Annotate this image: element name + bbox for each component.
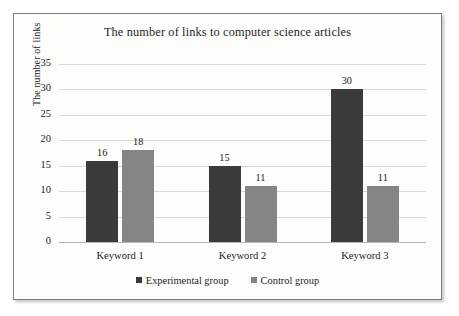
chart-title: The number of links to computer science …: [14, 25, 441, 40]
bar-value-label: 18: [122, 136, 154, 147]
x-axis-line: [59, 242, 426, 243]
bar-value-label: 11: [245, 172, 277, 183]
bar-value-label: 16: [86, 147, 118, 158]
x-category-label: Keyword 2: [183, 250, 303, 261]
bar-value-label: 15: [209, 152, 241, 163]
legend-swatch-icon: [136, 277, 142, 283]
y-tick-label: 35: [25, 57, 51, 68]
bar-experimental[interactable]: [209, 166, 241, 242]
legend-label: Experimental group: [146, 275, 229, 286]
bar-chart: The number of links to computer science …: [14, 14, 441, 299]
legend-swatch-icon: [251, 277, 257, 283]
legend-label: Control group: [261, 275, 320, 286]
x-category-label: Keyword 3: [305, 250, 425, 261]
gridline: [59, 140, 426, 141]
y-tick-label: 10: [25, 184, 51, 195]
plot-area: 161815113011: [59, 64, 426, 242]
bar-control[interactable]: [367, 186, 399, 242]
scanned-page-frame: The number of links to computer science …: [13, 13, 442, 300]
y-tick-label: 20: [25, 133, 51, 144]
bar-control[interactable]: [245, 186, 277, 242]
bar-value-label: 30: [331, 75, 363, 86]
bar-value-label: 11: [367, 172, 399, 183]
y-tick-label: 30: [25, 82, 51, 93]
gridline: [59, 64, 426, 65]
y-tick-label: 25: [25, 108, 51, 119]
y-tick-label: 15: [25, 159, 51, 170]
y-tick-label: 5: [25, 210, 51, 221]
gridline: [59, 89, 426, 90]
bar-control[interactable]: [122, 150, 154, 242]
x-category-label: Keyword 1: [60, 250, 180, 261]
bar-experimental[interactable]: [331, 89, 363, 242]
chart-legend: Experimental groupControl group: [14, 275, 441, 286]
legend-item-experimental-group[interactable]: Experimental group: [136, 275, 229, 286]
gridline: [59, 115, 426, 116]
bar-experimental[interactable]: [86, 161, 118, 242]
y-tick-label: 0: [25, 235, 51, 246]
legend-item-control-group[interactable]: Control group: [251, 275, 320, 286]
